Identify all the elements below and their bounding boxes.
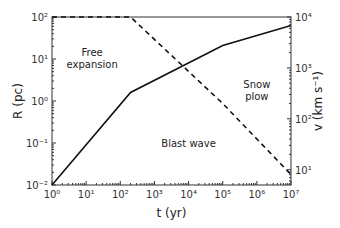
annotation: Free xyxy=(82,47,103,58)
y-tick-label: 10⁰ xyxy=(31,96,48,107)
x-tick-label: 10⁶ xyxy=(248,189,265,200)
y-tick-label: 10⁻¹ xyxy=(26,138,48,149)
annotation: Blast wave xyxy=(161,138,215,149)
chart: 10⁰10¹10²10³10⁴10⁵10⁶10⁷10⁻²10⁻¹10⁰10¹10… xyxy=(0,0,340,228)
x-axis-label: t (yr) xyxy=(157,206,187,220)
x-tick-label: 10⁷ xyxy=(283,189,300,200)
y-axis-label: R (pc) xyxy=(11,83,25,119)
x-tick-label: 10¹ xyxy=(78,189,95,200)
y-tick-label: 10² xyxy=(31,12,48,23)
y2-axis-label: v (km s⁻¹) xyxy=(311,71,325,131)
y2-tick-label: 10¹ xyxy=(295,165,312,176)
annotation: expansion xyxy=(67,59,118,70)
y2-tick-label: 10² xyxy=(295,114,312,125)
x-tick-label: 10⁵ xyxy=(214,189,231,200)
annotation: Snow xyxy=(243,79,270,90)
x-tick-label: 10⁴ xyxy=(180,189,197,200)
y2-tick-label: 10⁴ xyxy=(295,12,312,23)
y2-tick-label: 10³ xyxy=(295,63,312,74)
y-tick-label: 10⁻² xyxy=(26,180,48,191)
x-tick-label: 10³ xyxy=(146,189,163,200)
y-tick-label: 10¹ xyxy=(31,54,48,65)
x-tick-label: 10² xyxy=(112,189,129,200)
annotation: plow xyxy=(245,91,268,102)
